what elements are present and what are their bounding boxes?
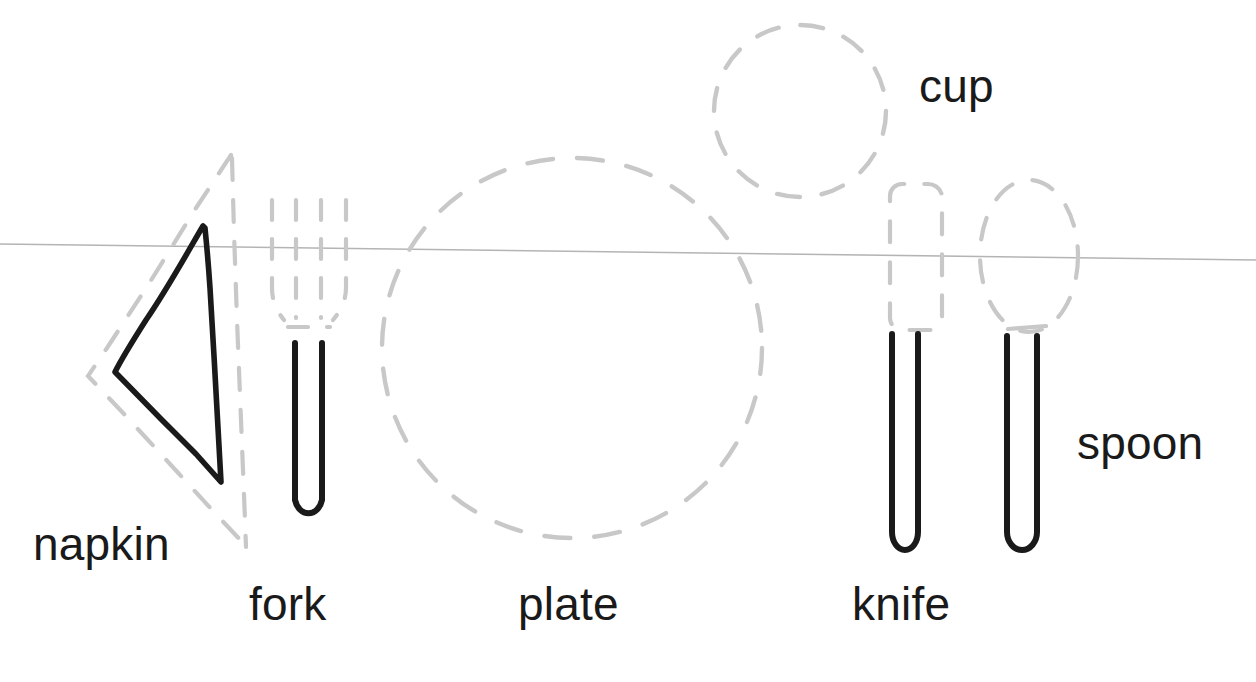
cup-group[interactable] — [714, 25, 886, 197]
knife-handle — [892, 334, 918, 550]
fork-handle — [295, 343, 322, 513]
plate-group[interactable] — [382, 158, 762, 538]
napkin-group[interactable] — [88, 155, 246, 547]
spoon-neck-guide — [1008, 326, 1046, 329]
knife-group[interactable] — [890, 184, 942, 550]
diagram-canvas — [0, 0, 1256, 682]
napkin-guide-right-edge — [232, 158, 246, 547]
label-cup: cup — [919, 63, 994, 109]
napkin-fold-shape — [115, 226, 221, 482]
label-knife: knife — [852, 581, 950, 627]
label-spoon: spoon — [1077, 420, 1203, 466]
label-napkin: napkin — [33, 521, 170, 567]
knife-blade-guide — [890, 184, 942, 330]
fork-tine-1 — [272, 200, 284, 320]
label-fork: fork — [249, 581, 326, 627]
place-setting-diagram: napkin fork plate knife cup spoon — [0, 0, 1256, 682]
spoon-handle — [1007, 336, 1037, 550]
napkin-guide-outline — [88, 155, 246, 546]
plate-guide-circle — [382, 158, 762, 538]
spoon-group[interactable] — [980, 180, 1078, 550]
label-plate: plate — [518, 581, 619, 627]
cup-guide-circle — [714, 25, 886, 197]
fork-tine-4 — [333, 200, 346, 320]
fork-tines-guide — [272, 200, 346, 327]
